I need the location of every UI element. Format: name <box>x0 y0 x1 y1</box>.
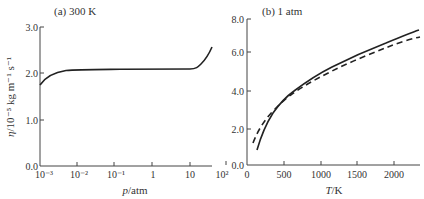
panel-a: (a) 300 K 3.0 2.0 1.0 0.0 10⁻³ 10⁻² 10⁻¹… <box>4 5 212 196</box>
panel-a-ylabel-unit: /10⁻⁵ kg m⁻¹ s⁻¹ <box>4 57 16 132</box>
panel-b-xlabel-unit: /K <box>332 184 343 196</box>
panel-b-dashed-curve <box>253 37 420 143</box>
panel-a-xtick-label: 10⁻² <box>70 169 88 180</box>
panel-a-xtick-label: 1 <box>151 169 156 180</box>
panel-b-title: (b) 1 atm <box>262 5 303 18</box>
panel-a-xtick-label: 10⁻¹ <box>107 169 125 180</box>
panel-b-xtick-label: 1500 <box>347 169 367 180</box>
panel-b-xlabel: T/K <box>325 184 342 196</box>
panel-b-xtick-label: 2000 <box>384 169 404 180</box>
panel-b: (b) 1 atm 8.0 6.0 4.0 2.0 0.0 10² 0 500 … <box>216 5 421 196</box>
panel-a-xlabel: p/atm <box>121 184 147 196</box>
panel-a-viscosity-curve <box>40 47 212 85</box>
panel-b-solid-curve <box>257 30 419 150</box>
panel-b-ytick-label: 0.0 <box>232 160 245 171</box>
panel-a-xtick-label: 10⁻³ <box>35 169 53 180</box>
panel-a-ytick-label: 3.0 <box>26 22 39 33</box>
panel-a-ytick-label: 2.0 <box>26 68 39 79</box>
panel-b-xtick-label: 1000 <box>311 169 331 180</box>
panel-b-ytick-label: 2.0 <box>232 124 245 135</box>
panel-b-ytick-label: 8.0 <box>232 14 245 25</box>
figure: (a) 300 K 3.0 2.0 1.0 0.0 10⁻³ 10⁻² 10⁻¹… <box>0 0 424 199</box>
panel-a-title: (a) 300 K <box>54 5 96 18</box>
panel-a-ytick-label: 1.0 <box>26 115 39 126</box>
panel-a-xtick-label: 10 <box>185 169 195 180</box>
panel-a-xtick-label: 10² <box>216 169 229 180</box>
panel-b-ytick-label: 6.0 <box>232 47 245 58</box>
panel-b-xtick-label: 0 <box>245 169 250 180</box>
panel-a-ylabel: η/10⁻⁵ kg m⁻¹ s⁻¹ <box>4 57 16 137</box>
panel-b-xtick-label: 500 <box>277 169 292 180</box>
panel-a-xlabel-unit: /atm <box>128 184 148 196</box>
panel-b-ytick-label: 4.0 <box>232 86 245 97</box>
